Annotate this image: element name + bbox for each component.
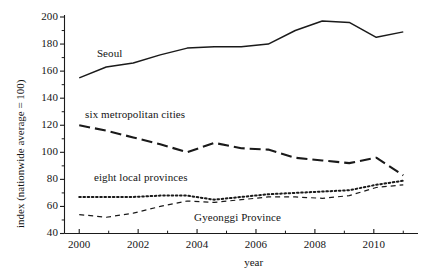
x-tick-label: 2002: [118, 238, 158, 250]
x-axis-title: year: [244, 256, 263, 268]
line-chart-canvas: [0, 0, 432, 272]
series-label-gyeonggi-province: Gyeonggi Province: [194, 211, 281, 223]
x-tick-label: 2010: [354, 238, 394, 250]
series-line-six-metropolitan-cities: [79, 125, 403, 175]
x-tick-label: 2004: [177, 238, 217, 250]
series-label-eight-local-provinces: eight local provinces: [94, 171, 188, 183]
y-axis-title: index (nationwide average = 100): [14, 79, 26, 228]
x-tick-label: 2000: [59, 238, 99, 250]
series-label-six-metropolitan-cities: six metropolitan cities: [85, 108, 185, 120]
y-tick-label: 160: [20, 64, 58, 76]
series-label-seoul: Seoul: [97, 47, 123, 59]
series-line-seoul: [79, 21, 403, 78]
chart-figure: 406080100120140160180200 200020022004200…: [0, 0, 432, 272]
x-tick-label: 2008: [295, 238, 335, 250]
x-tick-label: 2006: [236, 238, 276, 250]
y-axis-major-ticks: [60, 17, 65, 234]
y-tick-label: 200: [20, 10, 58, 22]
series-line-eight-local-provinces: [79, 181, 403, 200]
y-tick-label: 180: [20, 37, 58, 49]
